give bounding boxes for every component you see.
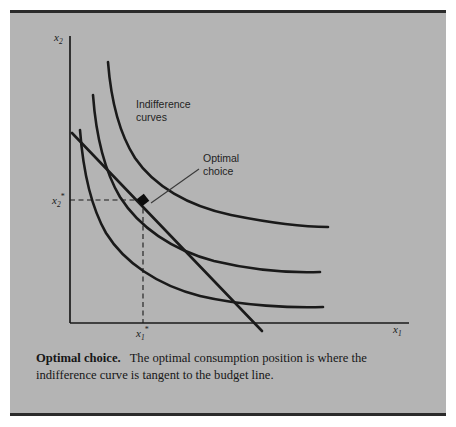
indifference-curve-low: [80, 130, 323, 307]
optimal-choice-annotation: Optimal choice: [203, 152, 239, 178]
optimal-choice-point-marker: [137, 194, 150, 207]
x-axis-label: x1: [393, 324, 402, 338]
caption-title: Optimal choice.: [36, 351, 121, 365]
y-axis-tick-label-x2-star: x2*: [52, 193, 65, 208]
indifference-curves-annotation: Indifference curves: [136, 98, 191, 124]
figure-caption: Optimal choice.The optimal consumption p…: [36, 350, 428, 384]
x-axis-tick-label-x1-star: x1*: [136, 326, 149, 341]
optimal-choice-leader-line: [151, 169, 199, 203]
y-axis-label: x2: [54, 32, 63, 46]
figure-root: x2 x1 x2* x1* Indifference curves Optima…: [0, 0, 456, 427]
indifference-curve-optimal: [93, 95, 320, 272]
